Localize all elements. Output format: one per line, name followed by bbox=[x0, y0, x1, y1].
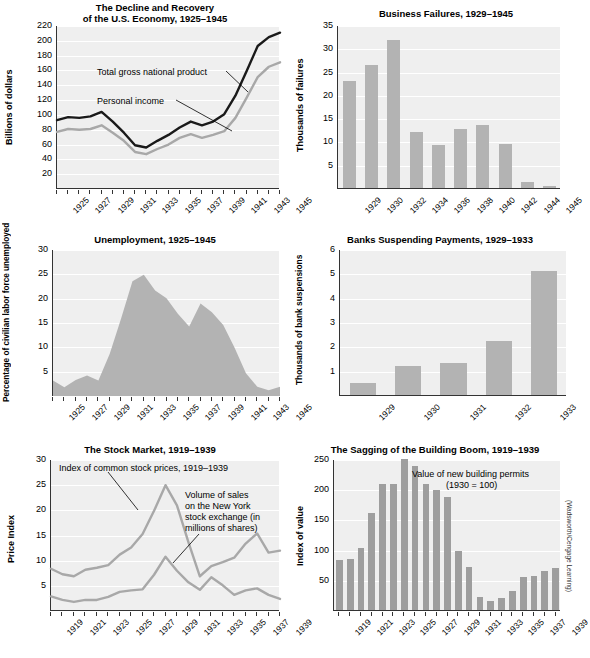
bar bbox=[521, 182, 534, 188]
y-tick-label: 140 bbox=[24, 79, 52, 89]
x-tickmark bbox=[200, 397, 201, 401]
x-tickmark bbox=[257, 190, 258, 194]
chart-panel-business-failures: Business Failures, 1929–1945 Thousands o… bbox=[291, 0, 581, 230]
plot-area-decline-recovery bbox=[56, 26, 279, 189]
bar bbox=[410, 132, 423, 188]
x-tick-label: 1931 bbox=[467, 402, 487, 422]
x-tickmark bbox=[268, 397, 269, 401]
x-tickmark bbox=[89, 190, 90, 194]
annotation-gnp: Total gross national product bbox=[97, 67, 207, 79]
x-tickmark bbox=[101, 190, 102, 194]
x-tick-label: 1941 bbox=[249, 195, 269, 215]
x-tickmark bbox=[533, 612, 534, 616]
x-tickmark bbox=[457, 612, 458, 616]
x-tick-label: 1939 bbox=[225, 402, 245, 422]
chart-title-decline-recovery: The Decline and Recovery of the U.S. Eco… bbox=[30, 2, 280, 24]
bar bbox=[379, 484, 386, 610]
x-tick-label: 1929 bbox=[363, 195, 383, 215]
x-tickmark bbox=[168, 190, 169, 194]
y-tick-label: 3 bbox=[307, 317, 335, 327]
y-tick-label: 10 bbox=[18, 555, 46, 565]
y-tick-label: 100 bbox=[24, 109, 52, 119]
y-tick-label: 5 bbox=[307, 268, 335, 278]
x-tickmark bbox=[425, 612, 426, 616]
x-tickmark bbox=[187, 612, 188, 616]
x-tickmark bbox=[522, 612, 523, 616]
bar bbox=[541, 571, 548, 610]
x-tickmark bbox=[279, 397, 280, 401]
x-tickmark bbox=[165, 612, 166, 616]
x-tickmark bbox=[234, 190, 235, 194]
x-tickmark bbox=[142, 612, 143, 616]
y-tick-label: 15 bbox=[305, 113, 333, 123]
x-tick-label: 1929 bbox=[461, 617, 481, 637]
y-tick-label: 4 bbox=[307, 293, 335, 303]
y-tick-label: 5 bbox=[305, 160, 333, 170]
bar bbox=[423, 484, 430, 610]
x-tickmark bbox=[501, 612, 502, 616]
bar bbox=[498, 598, 505, 610]
bar bbox=[487, 601, 494, 610]
x-tickmark bbox=[447, 612, 448, 616]
y-tick-label: 50 bbox=[301, 575, 329, 585]
y-tick-label: 20 bbox=[24, 168, 52, 178]
x-tick-label: 1944 bbox=[541, 195, 561, 215]
x-tickmark bbox=[123, 190, 124, 194]
x-tick-label: 1940 bbox=[496, 195, 516, 215]
x-tick-label: 1939 bbox=[569, 617, 589, 637]
bar bbox=[433, 490, 440, 610]
x-tick-label: 1941 bbox=[248, 402, 268, 422]
x-tick-label: 1927 bbox=[89, 402, 109, 422]
bar bbox=[444, 497, 451, 610]
x-tickmark bbox=[190, 190, 191, 194]
y-axis-label-decline-recovery: Billions of dollars bbox=[4, 42, 14, 172]
x-tickmark bbox=[109, 397, 110, 401]
x-tickmark bbox=[52, 397, 53, 401]
x-tick-label: 1929 bbox=[376, 402, 396, 422]
x-tick-label: 1933 bbox=[225, 617, 245, 637]
x-tickmark bbox=[245, 612, 246, 616]
bar bbox=[347, 559, 354, 610]
y-tick-label: 30 bbox=[20, 244, 48, 254]
y-tick-label: 20 bbox=[18, 504, 46, 514]
x-tickmark bbox=[371, 612, 372, 616]
x-tickmark bbox=[201, 190, 202, 194]
y-axis-label-unemployment: Percentage of civilian labor force unemp… bbox=[2, 230, 11, 402]
bar bbox=[455, 551, 462, 610]
x-tickmark bbox=[176, 612, 177, 616]
x-tickmark bbox=[131, 397, 132, 401]
gridline bbox=[338, 49, 560, 50]
x-tickmark bbox=[188, 397, 189, 401]
x-tickmark bbox=[392, 612, 393, 616]
x-tickmark bbox=[234, 397, 235, 401]
x-tickmark bbox=[145, 190, 146, 194]
x-tick-label: 1936 bbox=[452, 195, 472, 215]
plot-area-business-failures bbox=[337, 26, 560, 189]
x-tickmark bbox=[73, 612, 74, 616]
x-tick-label: 1929 bbox=[179, 617, 199, 637]
annotation-volume-line1: Volume of sales bbox=[185, 490, 249, 502]
y-tick-label: 200 bbox=[24, 35, 52, 45]
x-tickmark bbox=[349, 612, 350, 616]
x-tickmark bbox=[222, 612, 223, 616]
x-tick-label: 1943 bbox=[271, 195, 291, 215]
plot-area-bank-suspensions bbox=[339, 250, 566, 396]
chart-title-stock-market: The Stock Market, 1919–1939 bbox=[30, 444, 270, 455]
x-tick-label: 1943 bbox=[271, 402, 291, 422]
y-tick-label: 40 bbox=[24, 153, 52, 163]
x-tickmark bbox=[75, 397, 76, 401]
bar bbox=[390, 484, 397, 610]
y-tick-label: 5 bbox=[18, 580, 46, 590]
bar bbox=[432, 145, 445, 188]
x-tickmark bbox=[268, 612, 269, 616]
x-tickmark bbox=[279, 190, 280, 194]
x-tick-label: 1919 bbox=[353, 617, 373, 637]
x-tickmark bbox=[222, 397, 223, 401]
x-tickmark bbox=[107, 612, 108, 616]
x-tick-label: 1937 bbox=[548, 617, 568, 637]
bar bbox=[477, 597, 484, 610]
bar bbox=[365, 65, 378, 188]
x-tickmark bbox=[56, 190, 57, 194]
x-tick-label: 1932 bbox=[512, 402, 532, 422]
annotation-stock-price-index: Index of common stock prices, 1919–1939 bbox=[59, 463, 228, 475]
